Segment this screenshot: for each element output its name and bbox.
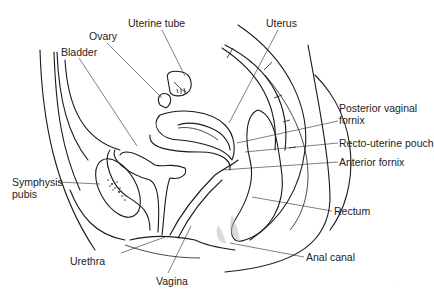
label-text: Symphysis xyxy=(12,176,63,188)
vagina-urethra-canals xyxy=(125,160,238,258)
label-text: Ovary xyxy=(89,30,117,42)
sacral-curves xyxy=(222,25,351,272)
label-text: Posterior vaginal xyxy=(339,102,417,114)
leader-symphysis-pubis xyxy=(58,182,100,184)
abdominal-wall-lines xyxy=(40,50,125,250)
label-posterior-vaginal-fornix: Posterior vaginalfornix xyxy=(339,102,417,126)
label-uterus: Uterus xyxy=(266,17,297,29)
leader-recto-uterine-pouch xyxy=(245,143,338,152)
label-vagina: Vagina xyxy=(156,275,188,287)
label-uterine-tube: Uterine tube xyxy=(128,17,185,29)
label-text: Anal canal xyxy=(306,251,355,263)
label-text-line2: fornix xyxy=(339,114,417,126)
leader-ovary xyxy=(107,43,162,98)
uterus-body xyxy=(150,111,234,170)
label-bladder: Bladder xyxy=(61,46,97,58)
label-text: Recto-uterine pouch xyxy=(339,137,434,149)
watermark: · · · xyxy=(392,282,401,288)
label-rectum: Rectum xyxy=(334,205,370,217)
uterine-tube-ovary xyxy=(158,71,191,108)
label-text: Rectum xyxy=(334,205,370,217)
label-symphysis-pubis: Symphysispubis xyxy=(12,176,63,200)
label-text: Anterior fornix xyxy=(339,156,404,168)
label-text: Uterus xyxy=(266,17,297,29)
label-text: Bladder xyxy=(61,46,97,58)
leader-anal-canal xyxy=(230,243,304,257)
rectum-body xyxy=(217,110,283,243)
label-text-line2: pubis xyxy=(12,188,63,200)
label-text: Vagina xyxy=(156,275,188,287)
label-text: Uterine tube xyxy=(128,17,185,29)
leader-uterine-tube xyxy=(162,30,185,76)
leader-bladder xyxy=(79,58,137,146)
label-recto-uterine-pouch: Recto-uterine pouch xyxy=(339,137,434,149)
label-ovary: Ovary xyxy=(89,30,117,42)
label-text: Urethra xyxy=(70,255,105,267)
label-urethra: Urethra xyxy=(70,255,105,267)
leader-rectum xyxy=(252,197,332,211)
label-anterior-fornix: Anterior fornix xyxy=(339,156,404,168)
label-anal-canal: Anal canal xyxy=(306,251,355,263)
